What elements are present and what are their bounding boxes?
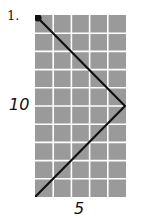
path-line [35, 17, 125, 197]
problem-number: 1. [7, 8, 19, 23]
height-label: 10 [9, 95, 29, 114]
width-label: 5 [74, 199, 84, 218]
grid-diagram [35, 15, 126, 197]
grid-lines [35, 15, 126, 197]
grid [35, 15, 126, 197]
